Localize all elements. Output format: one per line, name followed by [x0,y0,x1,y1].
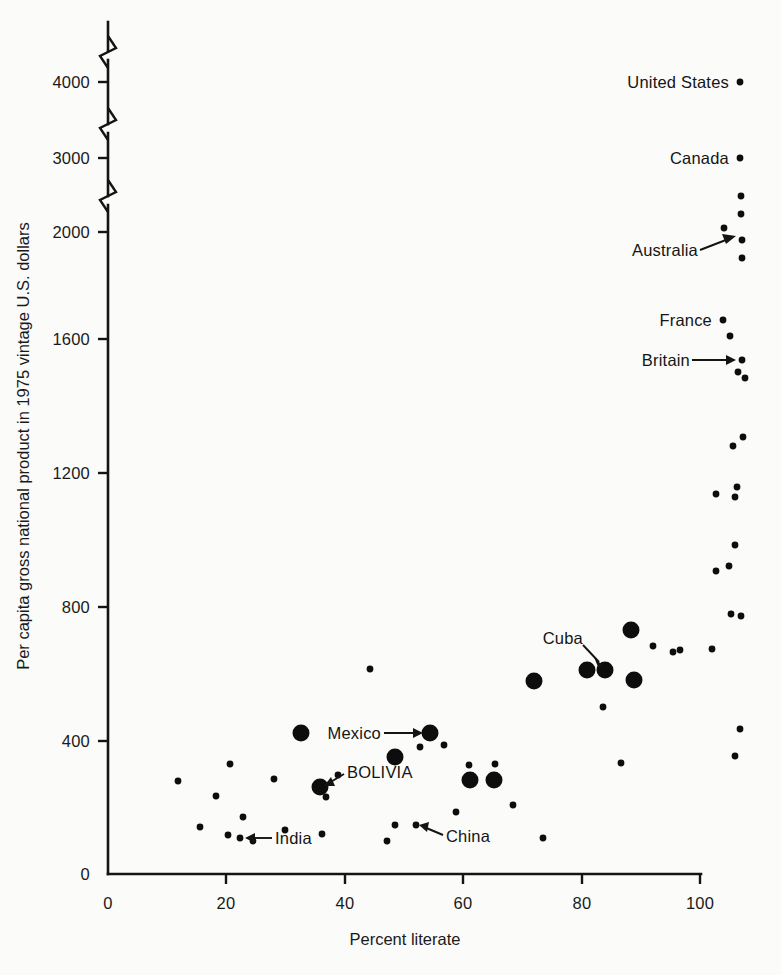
point-label-canada: Canada [670,149,729,168]
data-points-small [175,79,749,845]
point-label-india: India [275,829,312,848]
x-tick-label-100: 100 [686,894,714,913]
x-tick-label-0: 0 [103,894,112,913]
x-tick-label-60: 60 [454,894,473,913]
y-axis-title: Per capita gross national product in 197… [14,186,33,706]
x-tick-label-80: 80 [573,894,592,913]
x-axis-title: Percent literate [107,930,703,949]
y-axis [100,22,116,874]
point-label-bolivia: BOLIVIA [347,763,413,782]
x-tick-label-40: 40 [336,894,355,913]
y-tick-label-800: 800 [40,598,90,617]
y-axis-ticks [98,82,108,741]
point-label-united-states: United States [627,73,729,92]
point-label-cuba: Cuba [543,629,583,648]
data-points-large [293,622,643,796]
y-tick-label-400: 400 [40,732,90,751]
point-label-france: France [659,311,712,330]
x-tick-label-20: 20 [217,894,236,913]
y-tick-label-1600: 1600 [40,330,90,349]
y-tick-label-4000: 4000 [40,73,90,92]
plot-canvas [0,0,781,975]
scatter-plot-figure: 4000 3000 2000 1600 1200 800 400 0 0 20 … [0,0,781,975]
point-label-australia: Australia [632,241,698,260]
y-tick-label-3000: 3000 [40,149,90,168]
point-label-china: China [446,827,490,846]
y-tick-label-2000: 2000 [40,223,90,242]
x-axis [108,874,701,884]
y-tick-label-1200: 1200 [40,464,90,483]
point-label-mexico: Mexico [328,724,381,743]
y-tick-label-0: 0 [40,865,90,884]
point-label-britain: Britain [642,351,690,370]
